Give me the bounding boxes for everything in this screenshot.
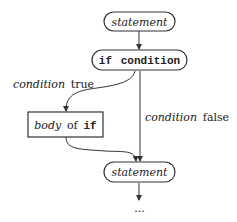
condition-text: condition — [121, 55, 180, 67]
node-if-condition-label: if condition — [99, 54, 180, 67]
if-statement-flowchart: statement if condition condition true bo… — [0, 0, 237, 222]
of-word: of — [67, 119, 79, 132]
edge-label-condition-false: condition false — [145, 111, 229, 124]
edge-condition-true — [66, 71, 135, 111]
label-false: false — [203, 111, 229, 124]
label-true: true — [71, 78, 94, 91]
node-body-of-if: body of if — [28, 112, 103, 137]
edge-label-condition-true: condition true — [13, 78, 94, 91]
if-keyword: if — [99, 55, 113, 67]
node-statement-top-label: statement — [112, 16, 169, 29]
if-keyword-body: if — [83, 120, 97, 132]
label-condition-italic: condition — [13, 78, 65, 91]
node-if-condition: if condition — [92, 50, 187, 70]
node-statement-bottom-label: statement — [112, 166, 169, 179]
node-statement-top: statement — [104, 12, 175, 31]
label-condition-italic-false: condition — [145, 111, 197, 124]
node-statement-bottom: statement — [104, 162, 175, 182]
continuation-ellipsis: ... — [134, 202, 145, 215]
body-word: body — [34, 119, 62, 132]
edge-body-to-statement — [66, 137, 136, 161]
